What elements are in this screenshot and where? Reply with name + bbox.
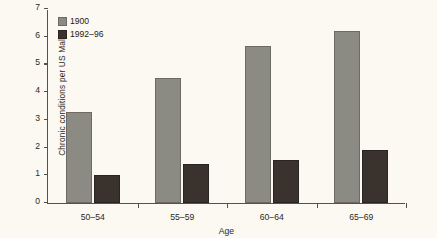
y-axis-tick: 3 bbox=[28, 119, 48, 120]
legend-item: 1900 bbox=[58, 15, 103, 27]
y-axis-tick-mark bbox=[44, 36, 49, 37]
bar bbox=[66, 112, 92, 203]
y-axis-tick-mark bbox=[44, 91, 49, 92]
bar bbox=[245, 46, 271, 203]
y-axis-tick-mark bbox=[44, 174, 49, 175]
y-axis-tick-label: 2 bbox=[20, 141, 40, 151]
y-axis-tick-label: 5 bbox=[20, 57, 40, 67]
y-axis-tick: 1 bbox=[28, 174, 48, 175]
y-axis-tick-label: 1 bbox=[20, 168, 40, 178]
bar bbox=[183, 164, 209, 203]
bar bbox=[273, 160, 299, 203]
x-axis-tick-label: 60–64 bbox=[260, 212, 284, 222]
x-axis-tick-label: 50–54 bbox=[81, 212, 105, 222]
y-axis-tick: 0 bbox=[28, 202, 48, 203]
y-axis-tick: 5 bbox=[28, 63, 48, 64]
y-axis-tick-mark bbox=[44, 63, 49, 64]
y-axis-tick-label: 0 bbox=[20, 196, 40, 206]
y-axis-tick: 7 bbox=[28, 8, 48, 9]
legend-label: 1900 bbox=[70, 16, 89, 26]
x-axis-tick-label: 55–59 bbox=[170, 212, 194, 222]
y-axis-tick-mark bbox=[44, 119, 49, 120]
bar bbox=[334, 31, 360, 203]
x-axis-tick-mark bbox=[406, 203, 407, 208]
y-axis-tick: 2 bbox=[28, 147, 48, 148]
x-axis-title: Age bbox=[48, 226, 405, 236]
y-axis-tick-label: 7 bbox=[20, 2, 40, 12]
x-axis-tick-label: 65–69 bbox=[349, 212, 373, 222]
legend-swatch-icon bbox=[58, 30, 67, 39]
legend-item: 1992–96 bbox=[58, 28, 103, 40]
legend-label: 1992–96 bbox=[70, 29, 103, 39]
x-axis-tick-mark bbox=[317, 203, 318, 208]
y-axis-tick: 4 bbox=[28, 91, 48, 92]
bar-chart-figure: 01234567 50–5455–5960–6465–69 Age Chroni… bbox=[0, 0, 437, 238]
legend-swatch-icon bbox=[58, 17, 67, 26]
y-axis-tick-mark bbox=[44, 202, 49, 203]
y-axis-tick-label: 4 bbox=[20, 85, 40, 95]
x-axis-tick-mark bbox=[227, 203, 228, 208]
y-axis-tick-mark bbox=[44, 8, 49, 9]
y-axis-tick-label: 3 bbox=[20, 113, 40, 123]
chart-legend: 1900 1992–96 bbox=[58, 15, 103, 41]
y-axis-tick-mark bbox=[44, 147, 49, 148]
bar bbox=[155, 78, 181, 203]
y-axis-tick: 6 bbox=[28, 36, 48, 37]
y-axis-tick-label: 6 bbox=[20, 30, 40, 40]
x-axis-tick-mark bbox=[138, 203, 139, 208]
bar bbox=[94, 175, 120, 203]
bar bbox=[362, 150, 388, 203]
